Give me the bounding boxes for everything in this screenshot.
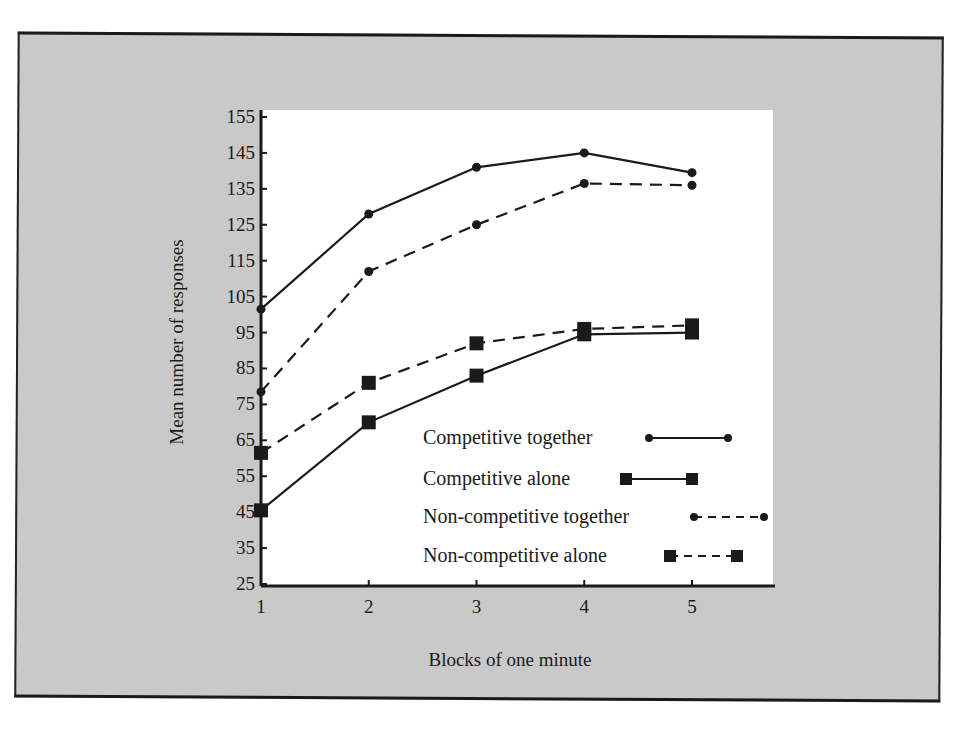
square-marker-icon [254,503,268,517]
x-tick-label: 2 [364,596,374,617]
circle-marker-icon [724,434,732,442]
x-tick-label: 1 [256,596,266,617]
y-tick-label: 145 [227,142,256,163]
circle-marker-icon [760,513,768,521]
square-marker-icon [620,473,632,485]
circle-marker-icon [580,179,589,188]
square-marker-icon [470,369,484,383]
y-tick-label: 45 [236,501,255,522]
circle-marker-icon [688,181,697,190]
square-marker-icon [664,550,676,562]
x-tick-label: 3 [472,596,482,617]
circle-marker-icon [580,148,589,157]
square-marker-icon [362,415,376,429]
y-tick-label: 25 [236,573,255,594]
y-tick-label: 95 [236,322,255,343]
y-tick-label: 125 [227,214,256,235]
y-tick-label: 155 [227,106,256,127]
square-marker-icon [577,322,591,336]
y-tick-label: 35 [236,537,255,558]
line-chart: 1551451351251151059585756555453525 12345… [0,0,977,749]
y-tick-label: 55 [236,465,255,486]
y-tick-label: 75 [236,393,255,414]
circle-marker-icon [472,163,481,172]
square-marker-icon [362,376,376,390]
circle-marker-icon [257,305,266,314]
legend-label: Non-competitive alone [423,544,607,567]
y-tick-label: 105 [227,286,256,307]
circle-marker-icon [690,513,698,521]
square-marker-icon [686,473,698,485]
y-axis-title: Mean number of responses [166,239,187,444]
circle-marker-icon [364,267,373,276]
legend-label: Competitive alone [423,467,570,490]
x-tick-label: 4 [580,596,590,617]
x-tick-label: 5 [687,596,697,617]
y-tick-label: 65 [236,429,255,450]
y-tick-label: 115 [227,250,255,271]
circle-marker-icon [688,168,697,177]
circle-marker-icon [645,434,653,442]
circle-marker-icon [472,220,481,229]
square-marker-icon [470,336,484,350]
circle-marker-icon [257,387,266,396]
y-tick-label: 135 [227,178,256,199]
y-tick-label: 85 [236,357,255,378]
circle-marker-icon [364,209,373,218]
legend-label: Competitive together [423,426,593,449]
square-marker-icon [685,318,699,332]
x-axis-title: Blocks of one minute [428,649,591,670]
square-marker-icon [254,446,268,460]
legend-label: Non-competitive together [423,505,629,528]
square-marker-icon [731,550,743,562]
